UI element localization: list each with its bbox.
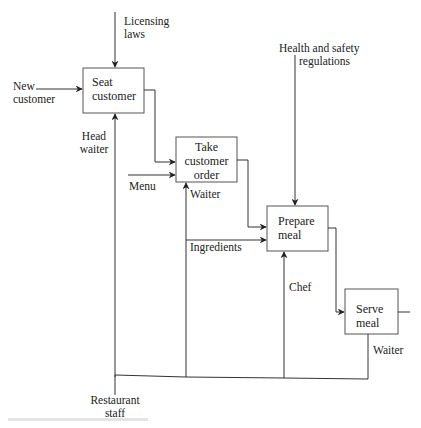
label-licensing-laws: Licensing laws <box>124 15 169 41</box>
label-head-waiter: Head waiter <box>78 130 110 156</box>
activity-label-line: customer <box>92 89 136 103</box>
label-waiter-take-order: Waiter <box>190 188 220 201</box>
activity-label-line: Take <box>176 140 237 154</box>
activity-prepare-meal: Prepare meal <box>278 214 315 242</box>
activity-label-line: meal <box>356 316 383 330</box>
label-waiter-serve: Waiter <box>373 344 403 357</box>
activity-seat-customer: Seat customer <box>92 75 136 103</box>
label-line: Licensing <box>124 15 169 28</box>
label-new-customer: New customer <box>13 80 55 106</box>
label-line: New <box>13 80 55 93</box>
faded-caption <box>8 418 148 421</box>
idef0-diagram: Seat customer Take customer order Prepar… <box>0 0 421 428</box>
activity-label-line: customer <box>176 154 237 168</box>
label-ingredients: Ingredients <box>190 241 242 254</box>
activity-label-line: Seat <box>92 75 136 89</box>
label-chef: Chef <box>289 281 311 294</box>
label-line: customer <box>13 93 55 106</box>
label-restaurant-staff: Restaurant staff <box>89 394 141 420</box>
label-health-safety: Health and safety regulations <box>279 42 359 68</box>
label-menu: Menu <box>129 180 156 193</box>
label-line: waiter <box>78 143 110 156</box>
activity-label-line: Prepare <box>278 214 315 228</box>
activity-label-line: meal <box>278 228 315 242</box>
activity-label-line: Serve <box>356 302 383 316</box>
label-line: laws <box>124 28 169 41</box>
label-line: Restaurant <box>89 394 141 407</box>
activity-serve-meal: Serve meal <box>356 302 383 330</box>
activity-take-customer-order: Take customer order <box>176 140 237 182</box>
activity-label-line: order <box>176 168 237 182</box>
label-line: regulations <box>279 55 359 68</box>
label-line: Health and safety <box>279 42 359 55</box>
label-line: Head <box>78 130 110 143</box>
